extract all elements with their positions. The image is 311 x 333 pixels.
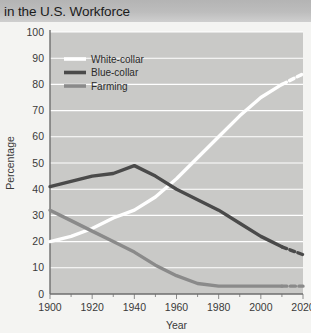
y-tick-label: 30 <box>32 209 44 221</box>
legend-label: White-collar <box>91 54 144 65</box>
y-tick-label: 60 <box>32 130 44 142</box>
x-tick-label: 1940 <box>123 301 147 313</box>
y-tick-label: 0 <box>38 288 44 300</box>
y-tick-label: 20 <box>32 235 44 247</box>
y-tick-label: 90 <box>32 52 44 64</box>
x-tick-label: 2000 <box>249 301 273 313</box>
y-tick-label: 70 <box>32 104 44 116</box>
x-tick-label: 1900 <box>38 301 62 313</box>
y-tick-label: 50 <box>32 157 44 169</box>
title-banner: in the U.S. Workforce <box>0 0 311 22</box>
x-tick-label: 1980 <box>207 301 231 313</box>
legend-label: Blue-collar <box>91 67 139 78</box>
x-tick-label: 2020 <box>291 301 311 313</box>
tick-marks <box>50 294 303 299</box>
legend-label: Farming <box>91 81 128 92</box>
y-axis-title: Percentage <box>4 136 16 190</box>
y-tick-label: 10 <box>32 261 44 273</box>
line-chart: 0102030405060708090100 19001920194019601… <box>0 22 311 333</box>
chart-container: 0102030405060708090100 19001920194019601… <box>0 22 311 333</box>
page-title: in the U.S. Workforce <box>0 4 130 19</box>
y-axis-tick-labels: 0102030405060708090100 <box>26 26 44 300</box>
x-axis-title: Year <box>166 319 188 331</box>
x-tick-label: 1920 <box>80 301 104 313</box>
x-tick-label: 1960 <box>165 301 189 313</box>
y-tick-label: 80 <box>32 78 44 90</box>
y-tick-label: 40 <box>32 183 44 195</box>
x-axis-tick-labels: 1900192019401960198020002020 <box>38 301 311 313</box>
y-tick-label: 100 <box>26 26 44 38</box>
